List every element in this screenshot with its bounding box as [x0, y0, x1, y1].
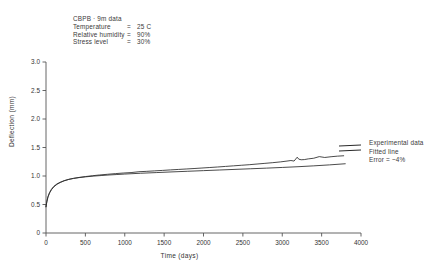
- x-axis-tick-label: 1000: [118, 239, 133, 246]
- y-axis-label: Deflection (mm): [8, 87, 15, 157]
- y-axis-tick-label: 0: [36, 229, 40, 236]
- x-axis-tick-label: 500: [80, 239, 91, 246]
- annotation-key-stress: Stress level: [73, 38, 127, 46]
- legend-entry-fitted: Fitted line: [369, 148, 424, 157]
- annotation-value-humidity: 90%: [137, 31, 150, 39]
- x-axis-tick-label: 0: [44, 239, 48, 246]
- annotation-row-stress: Stress level = 30%: [73, 38, 151, 46]
- annotation-key-humidity: Relative humidity: [73, 31, 127, 39]
- y-axis-tick-label: 2.0: [31, 115, 40, 122]
- x-axis-tick-label: 4000: [354, 239, 369, 246]
- x-axis-tick-label: 1500: [157, 239, 172, 246]
- y-axis-tick-label: 2.5: [31, 87, 40, 94]
- x-axis-tick-label: 3000: [275, 239, 290, 246]
- annotation-eq-stress: =: [127, 38, 137, 46]
- y-axis-tick-label: 1.5: [31, 144, 40, 151]
- chart-figure: CBPB · 9m data Temperature = 25 C Relati…: [0, 0, 439, 273]
- annotation-title: CBPB · 9m data: [73, 15, 151, 23]
- x-axis-tick-label: 2000: [196, 239, 211, 246]
- legend-error-text: Error = ~4%: [369, 156, 424, 165]
- annotation-eq-temperature: =: [127, 23, 137, 31]
- legend-marker-experimental: [339, 145, 361, 147]
- plot-area: 00.51.01.52.02.53.0050010001500200025003…: [0, 0, 439, 273]
- x-axis-tick-label: 3500: [315, 239, 330, 246]
- annotation-key-temperature: Temperature: [73, 23, 127, 31]
- y-axis-tick-label: 3.0: [31, 58, 40, 65]
- x-axis-label: Time (days): [0, 252, 439, 259]
- x-axis-tick-label: 2500: [236, 239, 251, 246]
- annotation-eq-humidity: =: [127, 31, 137, 39]
- legend-line-markers: [339, 143, 365, 155]
- annotation-row-temperature: Temperature = 25 C: [73, 23, 151, 31]
- chart-legend: Experimental data Fitted line Error = ~4…: [369, 139, 424, 165]
- legend-marker-fitted: [339, 150, 361, 152]
- annotation-row-humidity: Relative humidity = 90%: [73, 31, 151, 39]
- y-axis-tick-label: 1.0: [31, 172, 40, 179]
- series-line: [46, 156, 344, 207]
- series-group: [46, 156, 345, 207]
- y-axis-tick-label: 0.5: [31, 201, 40, 208]
- series-line: [46, 164, 345, 207]
- axes-group: 00.51.01.52.02.53.0050010001500200025003…: [31, 58, 368, 245]
- annotation-value-temperature: 25 C: [137, 23, 151, 31]
- legend-entry-experimental: Experimental data: [369, 139, 424, 148]
- annotation-value-stress: 30%: [137, 38, 150, 46]
- x-axis-label-text: Time (days): [161, 252, 199, 259]
- chart-annotation-block: CBPB · 9m data Temperature = 25 C Relati…: [73, 15, 151, 46]
